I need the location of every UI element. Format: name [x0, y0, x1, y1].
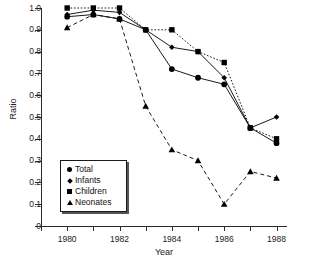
plot-area: 00.10.20.30.40.50.60.70.80.91.0 19801982… — [0, 0, 319, 262]
data-point-marker — [248, 125, 253, 130]
series-line — [67, 15, 276, 144]
triangle-marker-icon — [64, 197, 75, 208]
data-point-marker — [91, 5, 96, 10]
data-point-marker — [195, 49, 200, 54]
legend-item-label: Total — [75, 164, 93, 175]
data-point-marker — [169, 27, 174, 32]
data-point-marker — [169, 66, 175, 72]
data-point-marker — [195, 75, 201, 81]
chart-figure: 00.10.20.30.40.50.60.70.80.91.0 19801982… — [0, 0, 319, 262]
legend-item-label: Neonates — [75, 197, 111, 208]
data-point-marker — [274, 114, 280, 120]
circle-glyph — [67, 167, 72, 172]
data-point-marker — [195, 157, 202, 163]
diamond-glyph — [67, 178, 73, 184]
data-point-marker — [169, 44, 175, 50]
data-point-marker — [117, 5, 122, 10]
data-point-marker — [64, 5, 69, 10]
circle-marker-icon — [64, 164, 75, 175]
legend-item-infants: Infants — [64, 175, 122, 186]
chart-legend: TotalInfantsChildrenNeonates — [60, 160, 127, 212]
square-glyph — [67, 189, 72, 194]
legend-item-children: Children — [64, 186, 122, 197]
legend-item-label: Infants — [75, 175, 101, 186]
legend-item-neonates: Neonates — [64, 197, 122, 208]
data-point-marker — [274, 136, 279, 141]
triangle-glyph — [67, 200, 73, 205]
legend-item-label: Children — [75, 186, 107, 197]
data-point-marker — [142, 103, 149, 109]
data-point-marker — [221, 60, 226, 65]
data-point-marker — [247, 168, 254, 174]
data-point-marker — [143, 27, 148, 32]
diamond-marker-icon — [64, 175, 75, 186]
data-point-marker — [64, 24, 71, 30]
legend-item-total: Total — [64, 164, 122, 175]
data-series-layer — [0, 0, 319, 262]
data-point-marker — [169, 146, 176, 152]
square-marker-icon — [64, 186, 75, 197]
